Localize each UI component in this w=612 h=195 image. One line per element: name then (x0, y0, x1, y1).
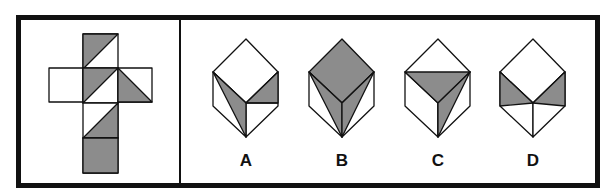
net-square-left (49, 68, 83, 102)
cube-net (49, 34, 152, 173)
option-label-d: D (518, 151, 548, 171)
cube-options (213, 39, 565, 137)
option-label-a: A (231, 151, 261, 171)
option-label-b: B (327, 151, 357, 171)
option-label-c: C (423, 151, 453, 171)
net-shade-bottom (83, 138, 118, 173)
puzzle-canvas: A B C D (0, 0, 612, 195)
